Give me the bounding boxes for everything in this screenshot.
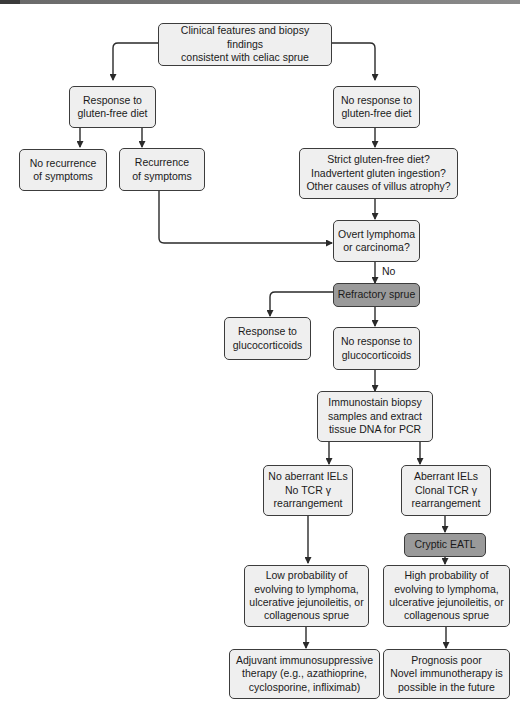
node-aberrant-iels: Aberrant IELs Clonal TCR γ rearrangement <box>401 465 491 516</box>
node-prognosis: Prognosis poor Novel immunotherapy is po… <box>383 649 510 699</box>
node-no-aberrant-iels: No aberrant IELs No TCR γ rearrangement <box>263 465 353 516</box>
node-response-gluten-free-diet: Response to gluten-free diet <box>69 86 156 128</box>
node-cryptic-eatl: Cryptic EATL <box>404 533 486 557</box>
arrow-refractory-to-response-gc <box>270 292 333 316</box>
node-high-probability: High probability of evolving to lymphoma… <box>383 565 510 627</box>
node-response-glucocorticoids: Response to glucocorticoids <box>224 317 311 360</box>
node-start: Clinical features and biopsy findings co… <box>158 23 332 66</box>
node-no-recurrence: No recurrence of symptoms <box>19 149 107 191</box>
node-overt-lymphoma: Overt lymphoma or carcinoma? <box>333 220 420 262</box>
node-no-response-glucocorticoids: No response to glucocorticoids <box>333 327 420 370</box>
node-check-causes: Strict gluten-free diet? Inadvertent glu… <box>299 148 458 199</box>
node-immunostain: Immunostain biopsy samples and extract t… <box>317 391 433 442</box>
node-refractory-sprue: Refractory sprue <box>333 283 420 307</box>
node-adjuvant-therapy: Adjuvant immunosuppressive therapy (e.g.… <box>229 649 380 699</box>
arrow-start-to-response-gfd <box>113 43 158 80</box>
edge-label-no: No <box>382 265 395 277</box>
arrow-start-to-no-response-gfd <box>332 43 375 80</box>
node-no-response-gluten-free-diet: No response to gluten-free diet <box>333 86 420 128</box>
node-recurrence: Recurrence of symptoms <box>119 148 205 191</box>
node-low-probability: Low probability of evolving to lymphoma,… <box>244 565 369 627</box>
